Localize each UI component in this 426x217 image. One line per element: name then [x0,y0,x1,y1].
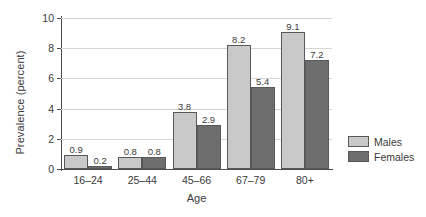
bar-females-25–44[interactable]: 0.8 [142,157,166,169]
bar-males-16–24[interactable]: 0.9 [64,155,88,169]
x-axis-line [61,169,333,170]
bar-value-label: 0.9 [69,144,82,155]
bar-value-label: 7.2 [310,49,323,60]
legend-label: Males [374,136,402,148]
y-tick-label: 0 [48,163,54,175]
y-tick-label: 6 [48,72,54,84]
bar-chart-figure: Prevalence (percent) 0246810 0.90.20.80.… [0,0,426,217]
bar-value-label: 9.1 [286,21,299,32]
bar-value-label: 3.8 [178,101,191,112]
x-tick-label-25–44: 25–44 [128,174,157,186]
y-axis-title: Prevalence (percent) [14,15,30,190]
y-tick-label: 4 [48,103,54,115]
bar-females-80+[interactable]: 7.2 [305,60,329,169]
x-axis-title: Age [61,192,332,204]
x-tick-label-80+: 80+ [296,174,314,186]
bar-value-label: 2.9 [202,114,215,125]
bar-females-67–79[interactable]: 5.4 [251,87,275,169]
bar-value-label: 0.8 [124,146,137,157]
y-tick-label: 2 [48,133,54,145]
legend-swatch-males [348,136,369,147]
bar-females-16–24[interactable]: 0.2 [88,166,112,169]
y-tick-mark [57,169,61,170]
plot-area: 0246810 0.90.20.80.83.82.98.25.49.17.2 [61,18,332,169]
legend-item-females[interactable]: Females [348,150,414,163]
bar-group: 3.82.9 [173,18,221,169]
bar-males-67–79[interactable]: 8.2 [227,45,251,169]
chart-legend: MalesFemales [348,135,414,165]
bar-females-45–66[interactable]: 2.9 [197,125,221,169]
y-tick-label: 10 [42,12,54,24]
bar-group: 9.17.2 [281,18,329,169]
y-tick-label: 8 [48,42,54,54]
bar-group: 8.25.4 [227,18,275,169]
x-tick-label-45–66: 45–66 [182,174,211,186]
legend-label: Females [374,151,414,163]
bar-males-80+[interactable]: 9.1 [281,32,305,169]
bar-value-label: 8.2 [232,34,245,45]
bar-value-label: 0.8 [148,146,161,157]
bar-males-25–44[interactable]: 0.8 [118,157,142,169]
x-tick-label-67–79: 67–79 [236,174,265,186]
bars-layer: 0.90.20.80.83.82.98.25.49.17.2 [61,18,332,169]
bar-males-45–66[interactable]: 3.8 [173,112,197,169]
legend-item-males[interactable]: Males [348,135,414,148]
bar-value-label: 5.4 [256,76,269,87]
x-tick-label-16–24: 16–24 [73,174,102,186]
bar-group: 0.90.2 [64,18,112,169]
bar-group: 0.80.8 [118,18,166,169]
bar-value-label: 0.2 [93,155,106,166]
legend-swatch-females [348,151,369,162]
